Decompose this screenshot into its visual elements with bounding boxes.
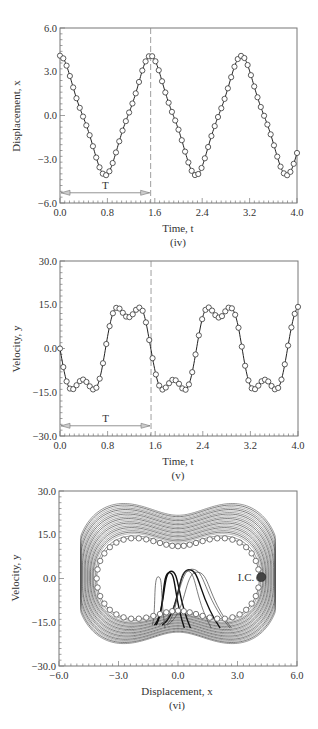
periodic-orbit-point — [193, 540, 198, 545]
data-point-marker — [271, 143, 276, 148]
data-point-marker — [261, 113, 266, 118]
plot-frame — [60, 261, 298, 436]
data-point-marker — [258, 104, 263, 109]
data-point-marker — [196, 333, 201, 338]
data-point-marker — [150, 356, 155, 361]
data-point-marker — [57, 346, 62, 351]
data-point-marker — [150, 54, 155, 59]
periodic-orbit-point — [107, 544, 112, 549]
periodic-orbit-point — [243, 607, 248, 612]
periodic-orbit-point — [215, 616, 220, 621]
x-tick-label: −3.0 — [109, 670, 128, 681]
data-point-marker — [97, 165, 102, 170]
data-point-marker — [156, 68, 161, 73]
data-point-marker — [143, 320, 148, 325]
data-point-marker — [236, 325, 241, 330]
y-tick-label: 15.0 — [38, 529, 56, 540]
y-tick-label: 3.0 — [44, 66, 57, 77]
data-point-marker — [278, 164, 283, 169]
periodic-orbit-point — [114, 540, 119, 545]
periodic-orbit-point — [175, 544, 180, 549]
panel-caption: (iv) — [170, 236, 186, 249]
data-point-marker — [292, 311, 297, 316]
periodic-orbit-point — [136, 616, 141, 621]
y-tick-labels: 6.03.00.0−3.0−6.0 — [38, 23, 57, 209]
data-point-marker — [288, 169, 293, 174]
data-point-marker — [190, 370, 195, 375]
x-tick-labels: −6.0−3.00.03.06.0 — [49, 670, 303, 681]
data-point-marker — [107, 169, 112, 174]
data-point-marker — [193, 352, 198, 357]
y-tick-label: 0.0 — [44, 110, 57, 121]
data-point-marker — [252, 84, 257, 89]
periodic-orbit-point — [200, 538, 205, 543]
periodic-orbit-point — [207, 615, 212, 620]
y-tick-labels: 30.015.00.0−15.0−30.0 — [32, 486, 56, 672]
data-point-marker — [140, 308, 145, 313]
data-point-marker — [291, 161, 296, 166]
arrow-right-icon — [141, 423, 150, 428]
y-axis-title: Velocity, y — [10, 325, 22, 372]
data-point-marker — [133, 91, 138, 96]
periodic-orbit-point — [157, 540, 162, 545]
data-point-marker — [229, 75, 234, 80]
data-point-marker — [242, 55, 247, 60]
data-point-marker — [77, 105, 82, 110]
data-point-marker — [243, 363, 248, 368]
periodic-orbit-point — [187, 542, 192, 547]
data-point-marker — [153, 372, 158, 377]
data-point-marker — [233, 312, 238, 317]
phase-plane-chart: I.C. 30.015.00.0−15.0−30.0 −6.0−3.00.03.… — [9, 486, 304, 713]
data-markers — [57, 304, 300, 392]
periodic-orbit-point — [181, 543, 186, 548]
data-point-marker — [143, 59, 148, 64]
data-point-marker — [182, 149, 187, 154]
data-point-marker — [61, 56, 66, 61]
x-tick-label: 0.0 — [171, 670, 184, 681]
data-point-marker — [94, 155, 99, 160]
periodic-orbit-point — [200, 613, 205, 618]
x-tick-label: 0.8 — [101, 207, 114, 218]
periodic-orbit-markers — [94, 536, 262, 622]
data-point-marker — [246, 378, 251, 383]
data-point-marker — [67, 73, 72, 78]
data-point-marker — [202, 156, 207, 161]
data-point-marker — [71, 85, 76, 90]
data-point-marker — [199, 165, 204, 170]
data-point-marker — [110, 311, 115, 316]
periodic-orbit-point — [157, 611, 162, 616]
periodic-orbit-point — [256, 585, 261, 590]
periodic-orbit-point — [187, 610, 192, 615]
data-point-marker — [176, 381, 181, 386]
data-point-marker — [248, 73, 253, 78]
periodic-orbit-point — [95, 585, 100, 590]
data-point-marker — [245, 62, 250, 67]
x-tick-label: −6.0 — [49, 670, 68, 681]
data-point-marker — [186, 160, 191, 165]
periodic-orbit-point — [128, 536, 133, 541]
data-point-marker — [136, 79, 141, 84]
periodic-orbit-point — [121, 537, 126, 542]
data-point-marker — [179, 138, 184, 143]
data-point-marker — [279, 377, 284, 382]
y-tick-label: 30.0 — [38, 486, 56, 497]
initial-condition-label: I.C. — [238, 571, 255, 583]
data-point-marker — [64, 63, 69, 68]
periodic-orbit-point — [249, 551, 254, 556]
x-ticks — [60, 198, 297, 203]
data-point-marker — [120, 128, 125, 133]
panel-caption: (vi) — [169, 699, 185, 712]
data-point-marker — [200, 317, 205, 322]
data-point-marker — [173, 118, 178, 123]
x-tick-label: 3.0 — [231, 670, 244, 681]
y-tick-label: −15.0 — [33, 387, 57, 398]
periodic-orbit-point — [114, 612, 119, 617]
data-point-marker — [232, 64, 237, 69]
data-point-marker — [268, 132, 273, 137]
y-tick-label: 15.0 — [39, 299, 57, 310]
data-point-marker — [289, 325, 294, 330]
panel-caption: (v) — [172, 469, 185, 482]
initial-condition-marker: I.C. — [238, 571, 266, 583]
periodic-orbit-point — [170, 608, 175, 613]
data-point-marker — [229, 306, 234, 311]
